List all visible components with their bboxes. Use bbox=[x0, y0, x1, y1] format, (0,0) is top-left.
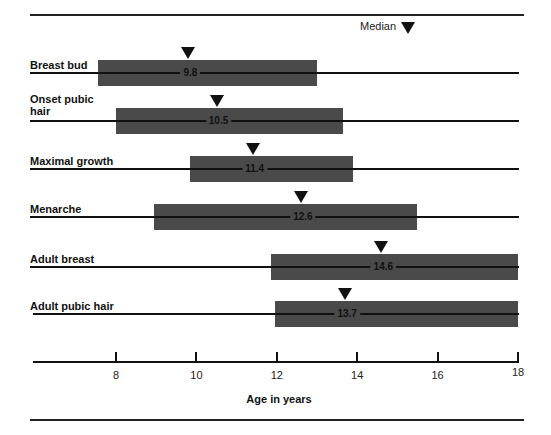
top-rule bbox=[30, 14, 524, 16]
x-tick bbox=[437, 352, 439, 362]
x-tick-label: 18 bbox=[512, 366, 524, 378]
x-tick-label: 16 bbox=[431, 369, 443, 381]
median-marker-icon bbox=[338, 288, 352, 300]
row-label-line: hair bbox=[30, 105, 94, 117]
x-tick bbox=[276, 352, 278, 362]
row-baseline bbox=[30, 216, 519, 218]
row-label-line: Breast bud bbox=[30, 59, 87, 71]
median-marker-icon bbox=[210, 95, 224, 107]
x-tick bbox=[517, 352, 519, 362]
x-axis-title: Age in years bbox=[246, 393, 311, 405]
row-label-line: Menarche bbox=[30, 203, 81, 215]
x-tick-label: 12 bbox=[271, 369, 283, 381]
row-baseline bbox=[30, 168, 519, 170]
x-tick-label: 10 bbox=[190, 369, 202, 381]
bottom-rule bbox=[30, 419, 524, 421]
row-label: Menarche bbox=[30, 203, 81, 215]
row-baseline bbox=[33, 313, 519, 315]
median-marker-icon bbox=[374, 241, 388, 253]
row-label-line: Adult breast bbox=[30, 253, 94, 265]
x-tick bbox=[115, 352, 117, 362]
row-label-line: Onset pubic bbox=[30, 93, 94, 105]
x-tick-label: 14 bbox=[351, 369, 363, 381]
x-tick-label: 8 bbox=[113, 369, 119, 381]
row-label: Adult pubic hair bbox=[30, 300, 114, 312]
median-triangle-icon bbox=[401, 22, 415, 34]
median-value: 9.8 bbox=[180, 67, 200, 79]
row-label: Breast bud bbox=[30, 59, 87, 71]
median-value: 14.6 bbox=[371, 261, 396, 273]
median-marker-icon bbox=[246, 143, 260, 155]
x-tick bbox=[356, 352, 358, 362]
median-value: 11.4 bbox=[242, 163, 267, 175]
median-value: 10.5 bbox=[206, 115, 231, 127]
median-marker-icon bbox=[294, 191, 308, 203]
row-label-line: Adult pubic hair bbox=[30, 300, 114, 312]
row-label: Adult breast bbox=[30, 253, 94, 265]
x-tick bbox=[195, 352, 197, 362]
legend-label: Median bbox=[360, 20, 396, 32]
row-label-line: Maximal growth bbox=[30, 155, 113, 167]
median-value: 13.7 bbox=[334, 308, 359, 320]
row-label: Maximal growth bbox=[30, 155, 113, 167]
row-baseline bbox=[30, 266, 519, 268]
median-marker-icon bbox=[181, 47, 195, 59]
median-value: 12.6 bbox=[290, 211, 315, 223]
row-baseline bbox=[30, 72, 519, 74]
row-label: Onset pubichair bbox=[30, 93, 94, 117]
row-baseline bbox=[30, 120, 519, 122]
